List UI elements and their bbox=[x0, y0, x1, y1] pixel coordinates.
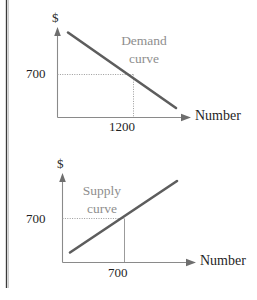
supply-curve-annotation: Supply curve bbox=[72, 184, 132, 215]
demand-y-axis-arrow-icon bbox=[54, 27, 61, 36]
demand-curve-annotation-line1: Demand bbox=[121, 33, 167, 48]
demand-curve-annotation-line2: curve bbox=[112, 52, 176, 66]
supply-curve-annotation-line2: curve bbox=[72, 202, 132, 216]
demand-y-axis-label: $ bbox=[52, 11, 59, 24]
demand-x-tick-1200: 1200 bbox=[109, 120, 135, 133]
supply-x-axis-label: Number bbox=[200, 254, 246, 268]
supply-x-tick-700: 700 bbox=[108, 266, 128, 279]
demand-x-axis-arrow-icon bbox=[181, 114, 191, 121]
supply-x-axis-arrow-icon bbox=[186, 259, 196, 266]
supply-curve-annotation-line1: Supply bbox=[83, 183, 121, 198]
demand-guide-lines bbox=[58, 75, 134, 118]
supply-y-axis-arrow-icon bbox=[59, 173, 66, 182]
demand-curve-annotation: Demand curve bbox=[112, 34, 176, 65]
supply-y-axis-label: $ bbox=[57, 157, 64, 170]
demand-x-axis-label: Number bbox=[195, 109, 241, 123]
supply-guide-lines bbox=[63, 219, 125, 263]
figure-container: $ 700 1200 Number Demand curve $ 700 700… bbox=[0, 0, 257, 300]
supply-y-tick-700: 700 bbox=[26, 212, 46, 225]
demand-y-tick-700: 700 bbox=[26, 67, 46, 80]
